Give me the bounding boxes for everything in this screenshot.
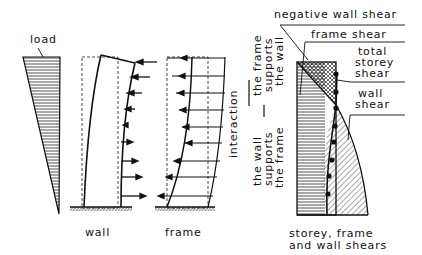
frame-ground-hatch	[155, 207, 215, 211]
wall-diagram	[70, 55, 157, 211]
interaction-title: interaction	[229, 90, 239, 158]
frame-supports-wall-line-3: the wall	[275, 36, 285, 86]
frame-label: frame	[165, 227, 202, 239]
frame-diagram	[155, 56, 225, 212]
load-diagram	[23, 48, 60, 214]
wall-label: wall	[85, 227, 110, 239]
wall-force-arrows	[121, 60, 157, 199]
negative-wall-shear-label: negative wall shear	[274, 9, 397, 21]
wall-supports-frame-line-3: the frame	[275, 127, 285, 188]
wall-ground-hatch	[70, 207, 132, 211]
total-storey-shear-label-3: shear	[355, 68, 390, 80]
frame-shear-label: frame shear	[311, 29, 387, 41]
shears-caption-line-2: and wall shears	[289, 240, 387, 252]
load-label: load	[30, 34, 57, 46]
wall-shear-label-2: shear	[355, 99, 390, 111]
load-leader-line	[38, 48, 43, 57]
